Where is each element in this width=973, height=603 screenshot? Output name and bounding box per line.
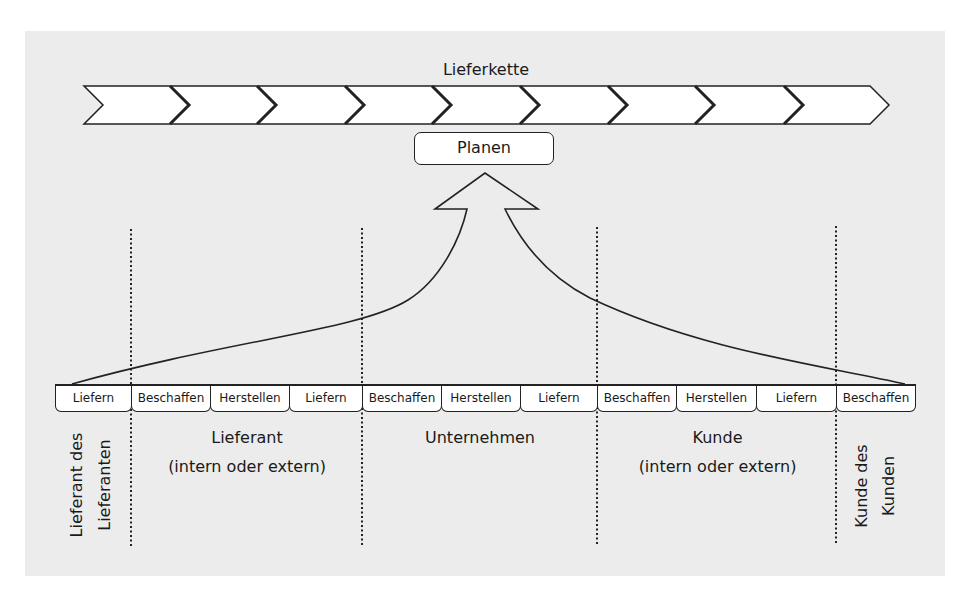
section-kunde-title: Kunde (605, 423, 830, 452)
section-lieferant-des-lieferanten-line2: Lieferanten (95, 430, 115, 540)
process-box-beschaffen: Beschaffen (131, 384, 211, 412)
planning-arrow (72, 173, 905, 384)
supply-chain-chevron-band (84, 86, 889, 124)
section-kunde: Kunde (intern oder extern) (605, 423, 830, 481)
process-box-liefern: Liefern (520, 384, 598, 412)
process-box-beschaffen: Beschaffen (597, 384, 677, 412)
process-box-beschaffen: Beschaffen (836, 384, 916, 412)
section-unternehmen-title: Unternehmen (370, 423, 590, 452)
process-box-beschaffen: Beschaffen (362, 384, 442, 412)
section-kunde-des-kunden-line1: Kunde des (852, 432, 872, 540)
section-lieferant-title: Lieferant (140, 423, 354, 452)
section-lieferant-subtitle: (intern oder extern) (140, 452, 354, 481)
supply-chain-title: Lieferkette (386, 60, 586, 80)
process-box-liefern: Liefern (756, 384, 837, 412)
section-unternehmen: Unternehmen (370, 423, 590, 452)
section-lieferant: Lieferant (intern oder extern) (140, 423, 354, 481)
process-box-herstellen: Herstellen (210, 384, 290, 412)
plan-box: Planen (414, 132, 554, 165)
process-box-herstellen: Herstellen (441, 384, 521, 412)
section-kunde-subtitle: (intern oder extern) (605, 452, 830, 481)
chevron-band-outline (84, 86, 889, 124)
process-box-herstellen: Herstellen (676, 384, 757, 412)
supply-chain-diagram (0, 0, 973, 603)
process-box-liefern: Liefern (289, 384, 363, 412)
section-kunde-des-kunden-line2: Kunden (879, 432, 899, 540)
process-box-liefern: Liefern (55, 384, 132, 412)
section-lieferant-des-lieferanten-line1: Lieferant des (67, 425, 87, 545)
